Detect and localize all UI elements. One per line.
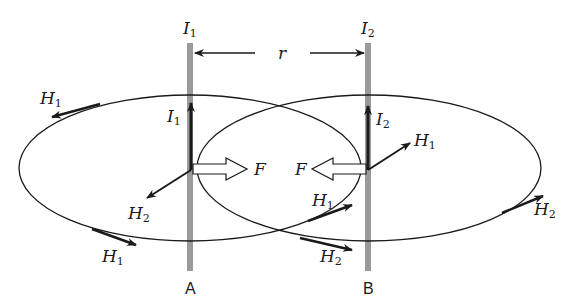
- field-label-h1-at-b: H1: [413, 130, 436, 152]
- force-label-b: F: [294, 159, 308, 179]
- field-arrow-h1-bottom-left-icon: [92, 229, 136, 245]
- distance-label: r: [278, 43, 287, 63]
- field-label-h2-right: H2: [533, 199, 556, 221]
- field-arrow-h1-at-b-icon: [368, 143, 410, 170]
- conductor-b-label: B: [363, 280, 374, 297]
- current-label-b: I2: [375, 109, 390, 131]
- field-label-h1-top-left: H1: [39, 88, 62, 110]
- force-label-a: F: [253, 159, 267, 179]
- conductor-force-diagram: r I1 I2 I1 I2 F F H2 H1 H1 H1 H1 H2 H2 A…: [0, 0, 567, 304]
- current-label-top-b: I2: [360, 18, 375, 40]
- current-label-a: I1: [166, 106, 181, 128]
- field-label-h1-bottom-left: H1: [101, 246, 124, 268]
- field-label-h2-bottom-mid: H2: [319, 246, 342, 268]
- force-arrow-b-icon: [312, 158, 366, 180]
- force-arrow-a-icon: [193, 158, 247, 180]
- field-label-h1-bottom-mid: H1: [311, 190, 334, 212]
- conductor-a-label: A: [185, 280, 196, 297]
- current-label-top-a: I1: [182, 18, 197, 40]
- field-label-h2-at-a: H2: [127, 203, 150, 225]
- field-arrow-h2-at-a-icon: [147, 170, 191, 198]
